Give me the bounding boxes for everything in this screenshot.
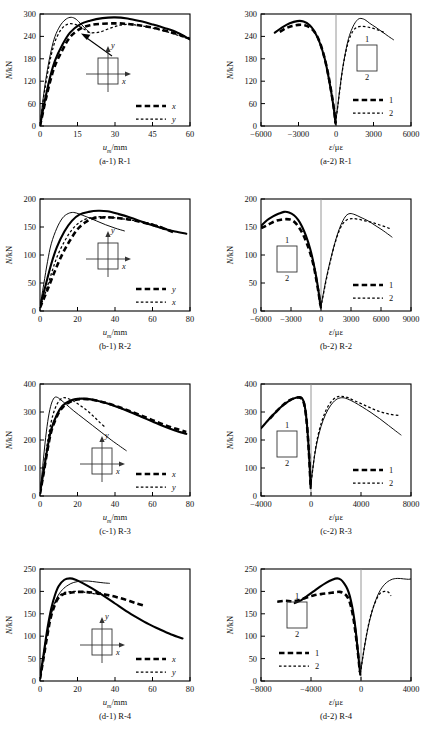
panel-caption: (d-2) R-4 <box>320 711 353 721</box>
data-curve <box>40 398 106 494</box>
x-tick-label: 60 <box>186 130 194 139</box>
y-tick-label: 250 <box>244 565 257 574</box>
y-tick-label: 150 <box>23 223 36 232</box>
y-tick-label: 50 <box>249 279 257 288</box>
x-tick-label: 20 <box>73 500 81 509</box>
data-curve <box>360 591 391 674</box>
curve-layer <box>40 17 190 126</box>
x-tick-label: −6000 <box>250 130 271 139</box>
inset-axis-x-label: x <box>121 262 126 271</box>
plot-frame <box>261 569 411 681</box>
chart-row: 060120180240300015304560N/kNum/mm(a-1) R… <box>0 0 443 185</box>
x-axis-label: um/mm <box>103 697 128 709</box>
inset-label-bottom: 2 <box>295 630 299 639</box>
x-tick-label: −3000 <box>288 130 309 139</box>
chart-panel-c-2: 0100200300400−4000040008000N/kNε/με(c-2)… <box>221 370 443 555</box>
x-tick-label: 40 <box>111 315 119 324</box>
legend-item: x <box>136 298 176 307</box>
legend-label: x <box>171 298 176 307</box>
cross-section-inset: yx <box>80 431 125 482</box>
legend-item: 2 <box>353 109 393 118</box>
x-axis-label: um/mm <box>103 142 128 154</box>
legend-label: y <box>171 483 176 492</box>
data-curve <box>40 399 186 494</box>
y-tick-label: 0 <box>32 677 36 686</box>
y-tick-label: 100 <box>244 464 257 473</box>
y-axis-label: N/kN <box>225 615 235 635</box>
y-tick-label: 400 <box>244 380 257 389</box>
legend: xy <box>136 102 176 124</box>
y-tick-label: 240 <box>23 32 36 41</box>
data-curve <box>40 217 173 307</box>
x-tick-label: 0 <box>334 130 338 139</box>
legend: yx <box>136 285 176 307</box>
curve-layer <box>40 397 186 494</box>
y-tick-label: 60 <box>249 100 257 109</box>
y-tick-label: 50 <box>249 655 257 664</box>
y-tick-label: 200 <box>244 587 257 596</box>
panel-caption: (a-2) R-1 <box>320 156 352 166</box>
x-tick-label: 80 <box>186 685 194 694</box>
y-tick-label: 100 <box>23 251 36 260</box>
inset-label-top: 1 <box>295 592 299 601</box>
x-tick-label: 30 <box>111 130 119 139</box>
y-axis-label: N/kN <box>225 245 235 265</box>
data-curve <box>321 214 392 308</box>
legend-label: 2 <box>389 479 393 488</box>
y-tick-label: 0 <box>32 122 36 131</box>
x-axis-label: um/mm <box>103 327 128 339</box>
numbered-section-inset: 12 <box>277 236 297 283</box>
x-tick-label: 6000 <box>403 130 420 139</box>
x-tick-label: −6000 <box>250 315 271 324</box>
panel-caption: (b-1) R-2 <box>99 341 131 351</box>
legend-label: 2 <box>315 662 319 671</box>
legend-item: y <box>136 668 176 677</box>
y-tick-label: 150 <box>244 610 257 619</box>
x-axis-label: ε/με <box>329 512 343 522</box>
y-tick-label: 150 <box>244 223 257 232</box>
curve-layer <box>261 396 401 488</box>
legend-item: 2 <box>353 479 393 488</box>
inset-axis-y-label: y <box>104 431 109 440</box>
inset-axis-y-label: y <box>104 612 109 621</box>
x-tick-label: 6000 <box>373 315 390 324</box>
legend-label: x <box>171 102 176 111</box>
y-tick-label: 120 <box>244 77 257 86</box>
data-curve <box>40 17 190 126</box>
x-tick-label: 9000 <box>403 315 420 324</box>
legend: xy <box>136 655 176 677</box>
x-tick-label: 60 <box>148 500 156 509</box>
y-tick-label: 0 <box>32 307 36 316</box>
legend-label: x <box>171 655 176 664</box>
data-curve <box>40 23 190 126</box>
y-tick-label: 180 <box>244 55 257 64</box>
y-tick-label: 200 <box>244 436 257 445</box>
x-tick-label: 3000 <box>365 130 382 139</box>
chart-row: 050100150200020406080N/kNum/mm(b-1) R-2y… <box>0 185 443 370</box>
legend-item: x <box>136 470 176 479</box>
legend-item: x <box>136 102 176 111</box>
chart-panel-b-2: 050100150200−6000−30000300060009000N/kNε… <box>221 185 443 370</box>
x-axis-label: ε/με <box>329 327 343 337</box>
inset-label-bottom: 2 <box>285 459 289 468</box>
legend-item: y <box>136 115 176 124</box>
data-curve <box>40 591 102 678</box>
y-tick-label: 200 <box>244 195 257 204</box>
legend-label: 2 <box>389 109 393 118</box>
legend: xy <box>136 470 176 492</box>
panel-caption: (d-1) R-4 <box>99 711 132 721</box>
legend-item: 1 <box>353 466 393 475</box>
inset-label-top: 1 <box>285 421 289 430</box>
legend-item: 1 <box>353 96 393 105</box>
x-axis-label: um/mm <box>103 512 128 524</box>
x-tick-label: 0 <box>38 315 42 324</box>
legend-item: 1 <box>279 649 319 658</box>
x-axis-label: ε/με <box>329 142 343 152</box>
legend-item: 1 <box>353 281 393 290</box>
figure-panel-grid: 060120180240300015304560N/kNum/mm(a-1) R… <box>0 0 443 749</box>
y-tick-label: 100 <box>244 251 257 260</box>
x-tick-label: 40 <box>111 500 119 509</box>
x-tick-label: 60 <box>148 685 156 694</box>
cross-section-inset: yx <box>86 41 131 92</box>
y-axis-label: N/kN <box>4 245 14 265</box>
